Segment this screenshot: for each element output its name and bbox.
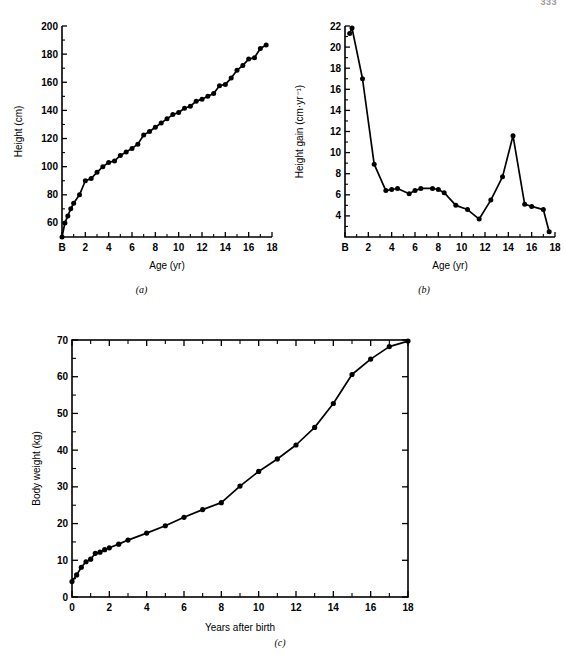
data-point <box>106 160 111 165</box>
data-point <box>69 579 74 584</box>
x-tick-label: 12 <box>479 242 491 253</box>
x-tick-label: 2 <box>107 602 113 613</box>
y-axis-title: Height (cm) <box>13 106 24 158</box>
y-tick-label: 12 <box>330 126 342 137</box>
y-tick-label: 4 <box>335 210 341 221</box>
data-point <box>112 159 117 164</box>
data-point <box>125 537 130 542</box>
data-series-line <box>350 28 550 232</box>
data-point <box>88 557 93 562</box>
x-tick-label: 4 <box>389 242 395 253</box>
y-tick-label: 160 <box>41 77 58 88</box>
data-point <box>235 68 240 73</box>
y-tick-label: 200 <box>41 21 58 32</box>
body-weight-vs-years-plot: 010203040506070024681012141618Years afte… <box>20 315 540 635</box>
x-tick-label: 6 <box>129 242 135 253</box>
y-tick-label: 60 <box>57 371 69 382</box>
y-tick-label: 40 <box>57 445 69 456</box>
data-point <box>256 469 261 474</box>
data-point <box>547 229 552 234</box>
data-point <box>387 344 392 349</box>
data-point <box>500 174 505 179</box>
data-point <box>124 149 129 154</box>
plot-area: 6080100120140160180200B24681012141618Age… <box>13 21 278 272</box>
y-tick-label: 60 <box>47 217 59 228</box>
data-point <box>405 339 410 344</box>
data-point <box>477 217 482 222</box>
data-point <box>453 203 458 208</box>
data-point <box>522 202 527 207</box>
data-point <box>181 515 186 520</box>
data-series-line <box>62 45 266 237</box>
panel-c-caption: (c) <box>20 637 540 648</box>
data-point <box>511 133 516 138</box>
data-point <box>102 547 107 552</box>
y-tick-label: 50 <box>57 408 69 419</box>
y-tick-label: 120 <box>41 133 58 144</box>
data-point <box>372 162 377 167</box>
y-tick-label: 18 <box>330 63 342 74</box>
data-point <box>293 442 298 447</box>
axis-lines <box>62 26 272 237</box>
x-tick-label: 14 <box>220 242 232 253</box>
data-point <box>83 178 88 183</box>
x-tick-label: 12 <box>290 602 302 613</box>
y-tick-label: 14 <box>330 105 342 116</box>
data-point <box>430 186 435 191</box>
data-point <box>383 188 388 193</box>
data-point <box>436 187 441 192</box>
y-tick-label: 10 <box>57 555 69 566</box>
panel-a-height-chart: 6080100120140160180200B24681012141618Age… <box>0 4 283 304</box>
data-point <box>188 104 193 109</box>
data-point <box>389 187 394 192</box>
data-point <box>258 46 263 51</box>
plot-area: 010203040506070024681012141618Years afte… <box>31 335 414 634</box>
x-tick-label: 18 <box>402 602 414 613</box>
data-point <box>100 164 105 169</box>
x-tick-label: 14 <box>503 242 515 253</box>
data-point <box>407 191 412 196</box>
data-point <box>418 186 423 191</box>
x-tick-label: 16 <box>365 602 377 613</box>
y-tick-label: 140 <box>41 105 58 116</box>
data-point <box>144 531 149 536</box>
y-tick-label: 16 <box>330 84 342 95</box>
data-point <box>147 129 152 134</box>
x-tick-label: 2 <box>366 242 372 253</box>
data-point <box>135 142 140 147</box>
data-point <box>488 198 493 203</box>
data-point <box>159 121 164 126</box>
data-point <box>68 206 73 211</box>
data-point <box>252 55 257 60</box>
x-tick-label: 18 <box>266 242 278 253</box>
data-point <box>347 31 352 36</box>
y-axis-title: Body weight (kg) <box>31 431 42 505</box>
x-tick-label: 10 <box>253 602 265 613</box>
y-tick-label: 70 <box>57 335 69 346</box>
data-point <box>413 188 418 193</box>
data-point <box>60 235 65 240</box>
data-point <box>219 500 224 505</box>
x-axis-title: Age (yr) <box>432 260 468 271</box>
x-tick-label: 2 <box>83 242 89 253</box>
x-tick-label: 6 <box>412 242 418 253</box>
panel-a-caption: (a) <box>0 284 283 295</box>
data-point <box>93 551 98 556</box>
data-point <box>176 110 181 115</box>
y-tick-label: 180 <box>41 49 58 60</box>
x-tick-label: 16 <box>526 242 538 253</box>
x-tick-label: 4 <box>106 242 112 253</box>
data-point <box>153 125 158 130</box>
data-point <box>465 207 470 212</box>
y-tick-label: 6 <box>335 189 341 200</box>
data-point <box>217 83 222 88</box>
axis-frame <box>72 340 408 597</box>
x-tick-label: 10 <box>456 242 468 253</box>
data-point <box>395 186 400 191</box>
data-point <box>62 220 67 225</box>
y-tick-label: 100 <box>41 161 58 172</box>
y-tick-label: 20 <box>57 518 69 529</box>
data-point <box>79 565 84 570</box>
data-point <box>182 106 187 111</box>
data-point <box>240 63 245 68</box>
